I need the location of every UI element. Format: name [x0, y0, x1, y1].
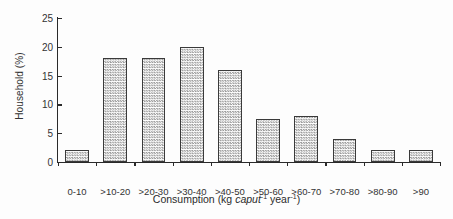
x-tick-mark [402, 162, 403, 166]
x-tick-mark [325, 162, 326, 166]
x-axis-label-mid: year [267, 193, 290, 205]
y-tick-mark [58, 76, 62, 77]
bar [142, 58, 166, 162]
bar [256, 119, 280, 162]
x-tick-mark [440, 162, 441, 166]
y-tick-mark [58, 133, 62, 134]
bar [409, 150, 433, 162]
x-tick-mark [134, 162, 135, 166]
y-tick-label: 25 [42, 13, 53, 24]
bar [371, 150, 395, 162]
x-tick-mark [58, 162, 59, 166]
bar [65, 150, 89, 162]
bar [218, 70, 242, 162]
y-axis-label-container: Household (%) [10, 16, 28, 156]
x-tick-mark [287, 162, 288, 166]
y-tick-mark [58, 104, 62, 105]
y-axis-label: Household (%) [14, 52, 25, 119]
x-axis-label-italic: caput [235, 193, 261, 205]
bar [333, 139, 357, 162]
x-tick-mark [211, 162, 212, 166]
x-tick-mark [364, 162, 365, 166]
bar [294, 116, 318, 162]
x-tick-mark [96, 162, 97, 166]
y-tick-label: 20 [42, 41, 53, 52]
plot-area: 05101520250-10>10-20>20-30>30-40>40-50>5… [58, 18, 440, 162]
chart-figure: Household (%) 05101520250-10>10-20>20-30… [0, 0, 453, 219]
y-tick-mark [58, 18, 62, 19]
x-tick-mark [249, 162, 250, 166]
x-tick-mark [173, 162, 174, 166]
x-axis-label: Consumption (kg caput-1 year-1) [0, 193, 453, 205]
bar [180, 47, 204, 162]
y-tick-label: 0 [47, 157, 53, 168]
bar [103, 58, 127, 162]
y-tick-label: 10 [42, 99, 53, 110]
y-tick-label: 5 [47, 128, 53, 139]
x-axis-label-post: ) [297, 193, 301, 205]
y-tick-label: 15 [42, 70, 53, 81]
y-tick-mark [58, 47, 62, 48]
x-axis-label-pre: Consumption (kg [153, 193, 235, 205]
